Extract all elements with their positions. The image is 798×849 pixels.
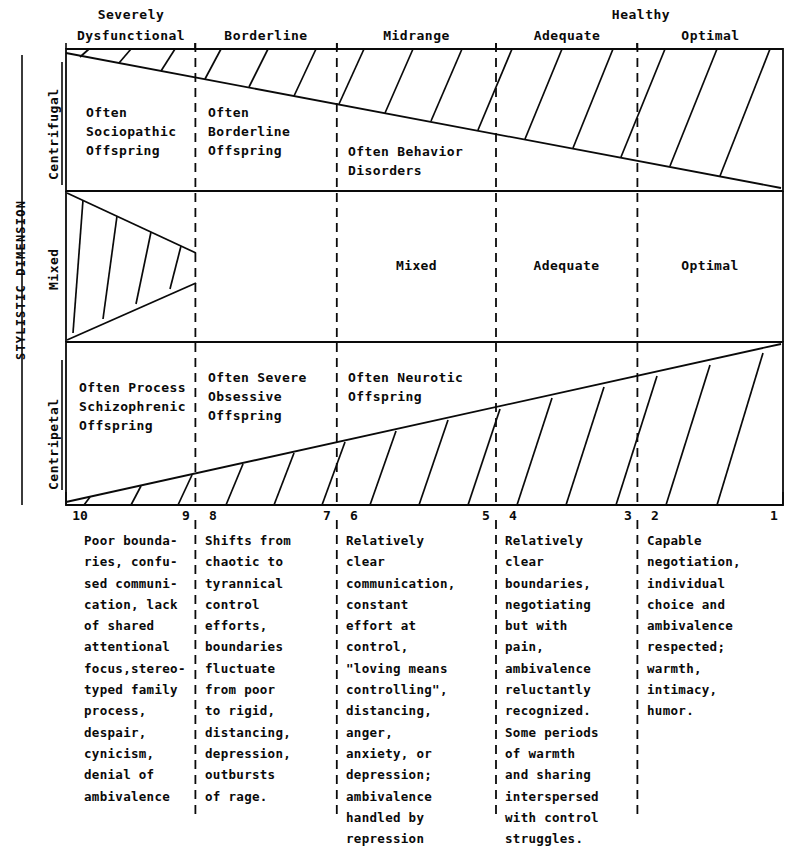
scale-axis [66,492,783,505]
cell-centripetal-borderline: Often Severe Obsessive Offspring [208,368,307,425]
description-adequate: Relatively clear boundaries, negotiating… [505,530,639,849]
cell-centripetal-midrange: Often Neurotic Offspring [348,368,463,406]
description-optimal: Capable negotiation, individual choice a… [647,530,787,722]
description-borderline: Shifts from chaotic to tyrannical contro… [205,530,337,807]
cell-mixed-adequate: Adequate [496,256,637,275]
mixed-wedge [67,193,196,340]
description-severely-dysfunctional: Poor bounda- ries, confu- sed communi- c… [84,530,196,807]
cell-centrifugal-borderline: Often Borderline Offspring [208,103,290,160]
cell-centrifugal-midrange: Often Behavior Disorders [348,142,463,180]
cell-mixed-midrange: Mixed [337,256,496,275]
cell-centripetal-severely-dysfunctional: Often Process Schizophrenic Offspring [79,378,186,435]
cell-centrifugal-severely-dysfunctional: Often Sociopathic Offspring [86,103,177,160]
cell-mixed-optimal: Optimal [637,256,783,275]
description-midrange: Relatively clear communication, constant… [346,530,498,849]
